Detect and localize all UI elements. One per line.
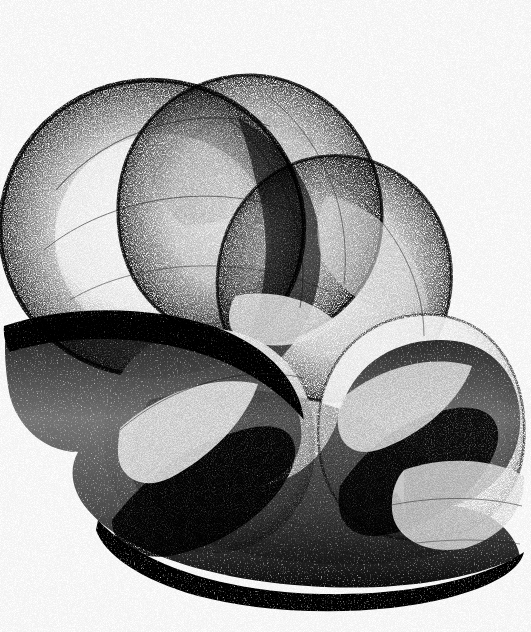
artwork-canvas bbox=[0, 0, 531, 632]
global-grain-overlay bbox=[0, 0, 531, 632]
artwork-frame: Untitled Stipple Composition bbox=[0, 0, 531, 632]
artwork-layers bbox=[0, 0, 531, 632]
